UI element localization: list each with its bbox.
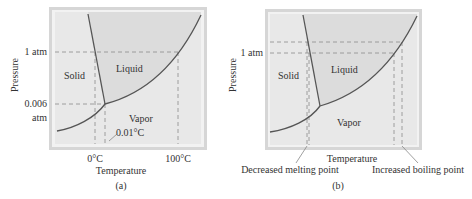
triple-point-annotation-a: 0.01°C (116, 127, 144, 138)
y-tick-0006-a: 0.006 (25, 98, 48, 109)
region-solid-b: Solid (278, 70, 299, 81)
y-tick-1atm-b: 1 atm (241, 47, 264, 58)
region-vapor-b: Vapor (337, 117, 362, 128)
x-tick-100c-a: 100°C (165, 153, 191, 164)
caption-b: (b) (332, 180, 344, 192)
region-liquid-b: Liquid (331, 64, 358, 75)
y-axis-label-b: Pressure (227, 58, 238, 92)
y-axis-label-a: Pressure (9, 58, 20, 92)
region-vapor-a: Vapor (129, 113, 154, 124)
y-tick-1atm-a: 1 atm (25, 46, 48, 57)
x-tick-0c-a: 0°C (87, 153, 103, 164)
y-tick-atm-a: atm (32, 112, 47, 123)
annotation-boiling-b: Increased boiling point (372, 164, 464, 175)
region-solid-a: Solid (64, 70, 85, 81)
x-axis-label-a: Temperature (96, 165, 147, 176)
panel-a: 1 atm 0.006 atm Pressure Solid Liquid Va… (9, 7, 207, 192)
annotation-melting-b: Decreased melting point (241, 164, 339, 175)
x-axis-label-b: Temperature (327, 153, 378, 164)
phase-diagrams: 1 atm 0.006 atm Pressure Solid Liquid Va… (0, 0, 472, 199)
panel-b: 1 atm Pressure Solid Liquid Vapor Temper… (227, 9, 464, 192)
region-liquid-a: Liquid (116, 63, 143, 74)
caption-a: (a) (115, 180, 126, 192)
